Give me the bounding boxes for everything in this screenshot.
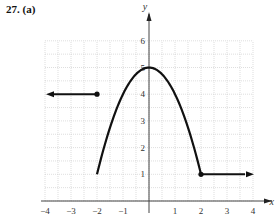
x-tick-label: −1 <box>118 206 128 216</box>
y-tick-label: 3 <box>141 116 146 126</box>
x-axis-label: x <box>269 196 275 207</box>
y-tick-label: 6 <box>141 36 146 46</box>
y-tick-label: 1 <box>141 169 146 179</box>
closed-point <box>198 172 203 177</box>
piecewise-function-chart: xy−4−3−2−11234123456 <box>0 0 278 219</box>
x-tick-label: −3 <box>66 206 76 216</box>
x-tick-label: −2 <box>92 206 102 216</box>
y-tick-label: 2 <box>141 143 146 153</box>
y-axis-label: y <box>142 1 148 12</box>
closed-point <box>94 92 99 97</box>
x-tick-label: −4 <box>40 206 50 216</box>
y-axis-arrow-icon <box>147 12 152 21</box>
left-ray-arrow-icon <box>46 91 54 97</box>
x-tick-label: 1 <box>173 206 178 216</box>
x-tick-label: 3 <box>225 206 230 216</box>
x-tick-label: 2 <box>199 206 204 216</box>
y-tick-label: 4 <box>141 89 146 99</box>
x-tick-label: 4 <box>251 206 256 216</box>
